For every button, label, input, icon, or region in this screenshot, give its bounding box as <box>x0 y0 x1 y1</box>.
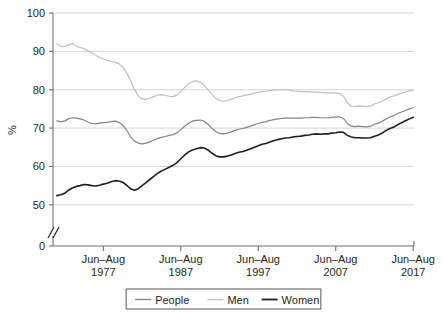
x-tick-label-year: 1977 <box>91 266 115 278</box>
y-tick-label: 0 <box>39 240 45 252</box>
legend-label-people: People <box>155 294 189 306</box>
y-tick-label: 50 <box>33 199 45 211</box>
chart-container: 10090807060500 Jun–Aug1977Jun–Aug1987Jun… <box>0 0 443 317</box>
x-tick-label-period: Jun–Aug <box>237 253 280 265</box>
y-tick-label: 60 <box>33 160 45 172</box>
axis-break-slash <box>53 227 59 238</box>
y-tick-label: 100 <box>27 7 45 19</box>
axis-break-marker <box>48 227 59 238</box>
employment-rate-line-chart: 10090807060500 Jun–Aug1977Jun–Aug1987Jun… <box>0 0 443 317</box>
legend-label-women: Women <box>282 294 320 306</box>
data-series <box>57 43 413 195</box>
x-tick-label-year: 2017 <box>401 266 425 278</box>
x-tick-label-period: Jun–Aug <box>314 253 357 265</box>
legend-label-men: Men <box>227 294 248 306</box>
x-tick-label-year: 2007 <box>324 266 348 278</box>
x-tick-label-period: Jun–Aug <box>159 253 202 265</box>
x-tick-label-year: 1997 <box>246 266 270 278</box>
y-tick-label: 80 <box>33 84 45 96</box>
x-tick-label-period: Jun–Aug <box>82 253 125 265</box>
chart-legend: PeopleMenWomen <box>126 289 321 309</box>
gridlines <box>53 13 414 205</box>
y-tick-label: 90 <box>33 45 45 57</box>
x-axis: Jun–Aug1977Jun–Aug1987Jun–Aug1997Jun–Aug… <box>53 241 435 278</box>
y-axis-title: % <box>6 125 18 135</box>
y-axis: 10090807060500 <box>27 7 53 252</box>
series-line-men <box>57 43 413 106</box>
y-tick-label: 70 <box>33 122 45 134</box>
series-line-women <box>57 117 413 195</box>
x-tick-label-year: 1987 <box>169 266 193 278</box>
x-tick-label-period: Jun–Aug <box>392 253 435 265</box>
